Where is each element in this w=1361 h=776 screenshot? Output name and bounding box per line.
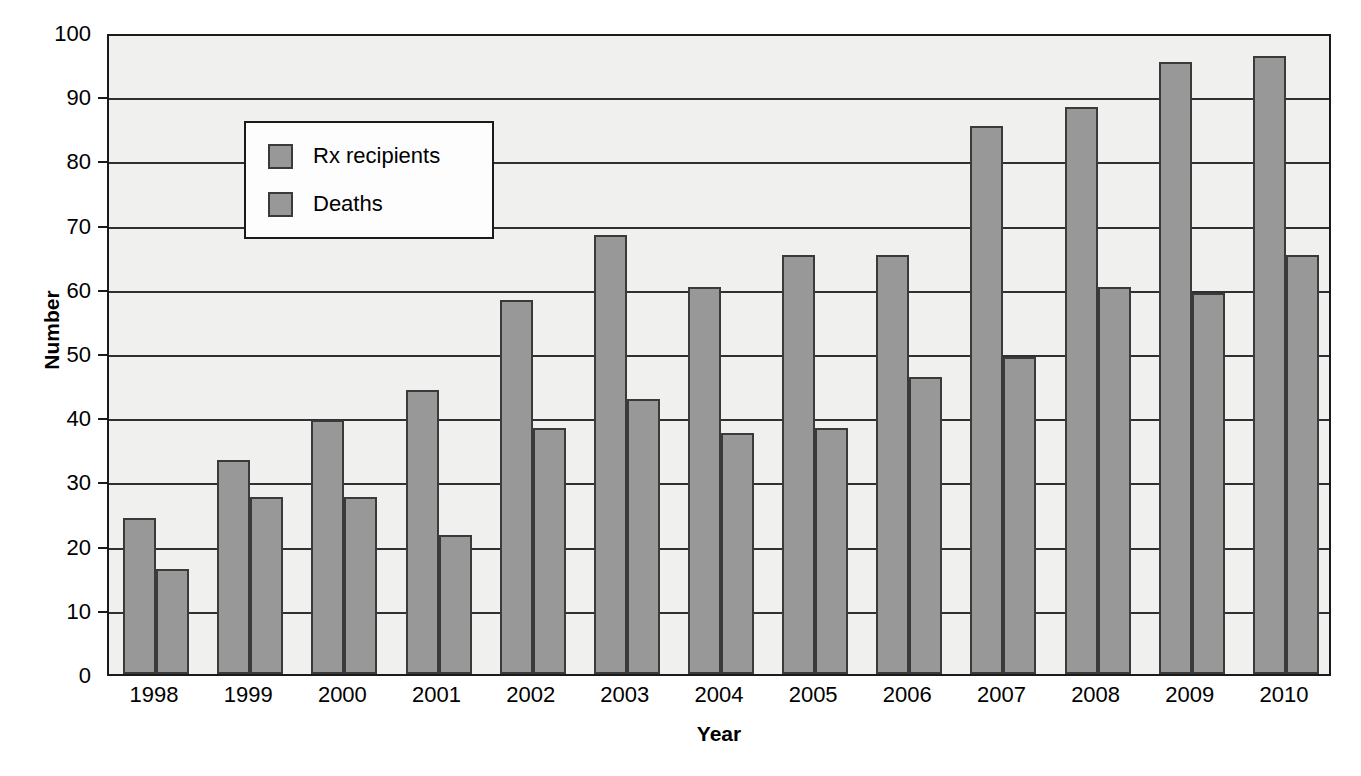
bar-deaths (627, 399, 660, 674)
bar-deaths (1286, 255, 1319, 674)
chart-legend: Rx recipients Deaths (244, 121, 494, 239)
bar-group (956, 36, 1050, 674)
bar-deaths (250, 497, 283, 674)
bar-group (486, 36, 580, 674)
bar-rx-recipients (1159, 62, 1192, 674)
y-axis-tick-mark (98, 611, 107, 613)
bar-deaths (156, 569, 189, 674)
x-axis-tick-label: 2010 (1237, 682, 1331, 708)
bar-rx-recipients (970, 126, 1003, 674)
bar-deaths (1192, 293, 1225, 674)
bar-rx-recipients (782, 255, 815, 674)
y-axis-tick-label: 60 (31, 280, 91, 302)
bar-group (109, 36, 203, 674)
legend-entry-deaths: Deaths (268, 189, 383, 219)
bar-deaths (344, 497, 377, 674)
y-axis-tick-mark (98, 547, 107, 549)
bar-group (768, 36, 862, 674)
x-axis-tick-label: 2007 (954, 682, 1048, 708)
bar-group (674, 36, 768, 674)
bar-deaths (439, 535, 472, 674)
bar-deaths (721, 433, 754, 674)
x-axis-tick-label: 1999 (201, 682, 295, 708)
bar-rx-recipients (500, 300, 533, 674)
bar-rx-recipients (688, 287, 721, 674)
y-axis-tick-mark (98, 354, 107, 356)
x-axis-tick-label: 2003 (578, 682, 672, 708)
x-axis-tick-label: 2005 (766, 682, 860, 708)
x-axis-tick-label: 2000 (295, 682, 389, 708)
x-axis-tick-label: 1998 (107, 682, 201, 708)
bar-deaths (815, 428, 848, 674)
y-axis-tick-label: 0 (31, 665, 91, 687)
y-axis-tick-label: 70 (31, 216, 91, 238)
bar-deaths (533, 428, 566, 674)
x-axis-tick-label: 2001 (389, 682, 483, 708)
bar-group (862, 36, 956, 674)
y-axis-tick-label: 50 (31, 344, 91, 366)
y-axis-tick-label: 100 (31, 23, 91, 45)
x-axis-tick-label: 2004 (672, 682, 766, 708)
y-axis-tick-mark (98, 482, 107, 484)
bar-group (1145, 36, 1239, 674)
bar-group (1239, 36, 1333, 674)
bar-rx-recipients (123, 518, 156, 674)
y-axis-tick-label: 20 (31, 537, 91, 559)
bar-rx-recipients (217, 460, 250, 674)
bar-deaths (1003, 357, 1036, 674)
legend-swatch-icon (268, 144, 293, 169)
bar-group (1051, 36, 1145, 674)
y-axis-tick-label: 90 (31, 87, 91, 109)
legend-label: Rx recipients (313, 143, 440, 169)
plot-area: Rx recipients Deaths (107, 34, 1331, 676)
y-axis-tick-mark (98, 418, 107, 420)
y-axis-tick-mark (98, 290, 107, 292)
y-axis-tick-label: 40 (31, 408, 91, 430)
bar-rx-recipients (594, 235, 627, 674)
x-axis-title: Year (107, 722, 1331, 746)
bar-rx-recipients (311, 420, 344, 674)
y-axis-tick-mark (98, 161, 107, 163)
bar-chart-figure: Number 0102030405060708090100 Rx recipie… (0, 0, 1361, 776)
y-axis-tick-mark (98, 97, 107, 99)
bar-group (580, 36, 674, 674)
y-axis-tick-mark (98, 226, 107, 228)
bar-rx-recipients (406, 390, 439, 674)
bar-rx-recipients (876, 255, 909, 674)
y-axis-tick-label: 30 (31, 472, 91, 494)
bar-deaths (909, 377, 942, 674)
legend-label: Deaths (313, 191, 383, 217)
y-axis-tick-label: 10 (31, 601, 91, 623)
x-axis-tick-label: 2008 (1049, 682, 1143, 708)
y-axis-tick-label: 80 (31, 151, 91, 173)
x-axis-tick-label: 2006 (860, 682, 954, 708)
bar-rx-recipients (1065, 107, 1098, 674)
legend-entry-rx-recipients: Rx recipients (268, 141, 440, 171)
legend-swatch-icon (268, 192, 293, 217)
y-axis-tick-labels: 0102030405060708090100 (0, 0, 107, 776)
x-axis-tick-labels: 1998199920002001200220032004200520062007… (107, 682, 1331, 716)
bar-deaths (1098, 287, 1131, 674)
x-axis-tick-label: 2002 (484, 682, 578, 708)
x-axis-tick-label: 2009 (1143, 682, 1237, 708)
bar-rx-recipients (1253, 56, 1286, 674)
